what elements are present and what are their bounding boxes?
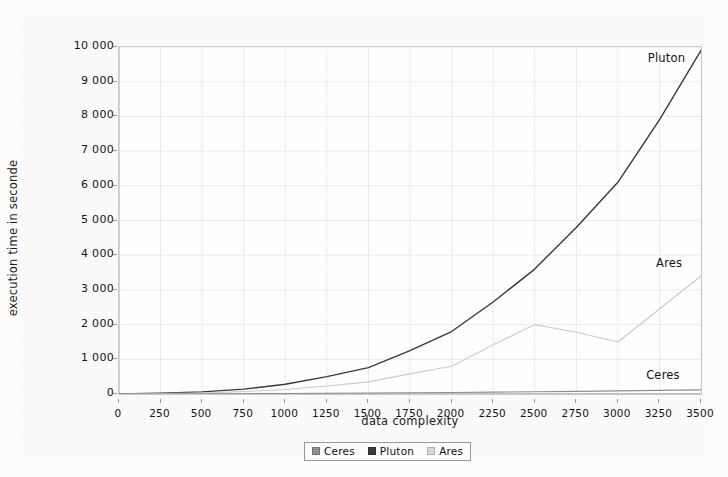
y-tick-label: 9 000	[22, 74, 114, 87]
legend-item-ceres[interactable]: Ceres	[312, 445, 355, 457]
x-tick-mark	[201, 399, 202, 403]
x-tick-mark	[409, 399, 410, 403]
y-tick-mark	[113, 358, 117, 359]
series-annotation-ceres: Ceres	[646, 368, 680, 382]
x-tick-mark	[534, 399, 535, 403]
plot-svg	[119, 47, 701, 394]
x-tick-mark	[160, 399, 161, 403]
y-tick-label: 7 000	[22, 143, 114, 156]
y-tick-mark	[113, 185, 117, 186]
x-tick-mark	[451, 399, 452, 403]
y-tick-mark	[113, 254, 117, 255]
x-axis-title: data complexity	[118, 414, 702, 428]
series-annotation-pluton: Pluton	[648, 51, 685, 65]
y-tick-label: 0	[22, 386, 114, 399]
chart-panel: execution time in seconde 01 0002 0003 0…	[0, 0, 728, 477]
chart-legend: CeresPlutonAres	[304, 442, 471, 461]
x-tick-mark	[658, 399, 659, 403]
y-tick-mark	[113, 46, 117, 47]
y-tick-mark	[113, 150, 117, 151]
y-tick-label: 6 000	[22, 178, 114, 191]
legend-item-pluton[interactable]: Pluton	[368, 445, 414, 457]
y-tick-mark	[113, 324, 117, 325]
y-tick-label: 4 000	[22, 247, 114, 260]
x-tick-mark	[367, 399, 368, 403]
x-tick-mark	[326, 399, 327, 403]
y-tick-label: 2 000	[22, 317, 114, 330]
plot-area: PlutonAresCeres	[118, 46, 702, 395]
y-tick-mark	[113, 220, 117, 221]
x-tick-mark	[284, 399, 285, 403]
y-tick-mark	[113, 115, 117, 116]
x-tick-mark	[492, 399, 493, 403]
legend-label: Pluton	[380, 445, 414, 457]
x-tick-mark	[575, 399, 576, 403]
legend-label: Ceres	[324, 445, 355, 457]
legend-label: Ares	[439, 445, 463, 457]
y-tick-label: 3 000	[22, 282, 114, 295]
x-tick-mark	[700, 399, 701, 403]
legend-item-ares[interactable]: Ares	[427, 445, 463, 457]
x-tick-mark	[617, 399, 618, 403]
x-tick-mark	[243, 399, 244, 403]
legend-swatch-icon	[427, 447, 435, 455]
y-tick-label: 5 000	[22, 213, 114, 226]
y-tick-label: 1 000	[22, 351, 114, 364]
y-tick-label: 8 000	[22, 108, 114, 121]
legend-swatch-icon	[368, 447, 376, 455]
x-tick-mark	[118, 399, 119, 403]
y-tick-mark	[113, 289, 117, 290]
y-tick-mark	[113, 81, 117, 82]
legend-swatch-icon	[312, 447, 320, 455]
y-tick-mark	[113, 393, 117, 394]
y-axis-tick-labels: 01 0002 0003 0004 0005 0006 0007 0008 00…	[18, 10, 114, 410]
y-tick-label: 10 000	[22, 39, 114, 52]
series-annotation-ares: Ares	[656, 256, 682, 270]
chart-panel-inner: execution time in seconde 01 0002 0003 0…	[18, 10, 710, 458]
